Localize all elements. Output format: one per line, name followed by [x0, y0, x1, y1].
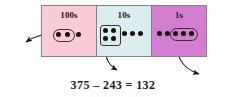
tens-dot	[111, 28, 116, 33]
tens-dot	[138, 31, 143, 36]
place-value-subtraction-diagram: 100s 10s 1s	[0, 0, 226, 97]
place-value-chart: 100s 10s 1s	[41, 5, 207, 57]
ones-dot	[189, 31, 194, 36]
tens-dot	[130, 31, 135, 36]
ones-dot	[165, 31, 170, 36]
hundreds-dot	[56, 32, 61, 37]
column-ones[interactable]: 1s	[152, 6, 206, 56]
tens-dot	[111, 36, 116, 41]
ones-dot	[157, 31, 162, 36]
ones-dot	[181, 31, 186, 36]
hundreds-dot	[65, 32, 70, 37]
column-hundreds-dots	[42, 24, 96, 56]
column-hundreds[interactable]: 100s	[42, 6, 97, 56]
ones-dot	[173, 31, 178, 36]
equation-text: 375 – 243 = 132	[0, 78, 226, 93]
hundreds-dot	[76, 32, 81, 37]
tens-dot	[103, 36, 108, 41]
column-ones-label: 1s	[152, 10, 206, 20]
tens-dot	[103, 28, 108, 33]
column-ones-dots	[152, 24, 206, 56]
column-tens-dots	[97, 24, 151, 56]
column-hundreds-label: 100s	[42, 10, 96, 20]
column-tens[interactable]: 10s	[97, 6, 152, 56]
tens-dot	[122, 31, 127, 36]
column-tens-label: 10s	[97, 10, 151, 20]
